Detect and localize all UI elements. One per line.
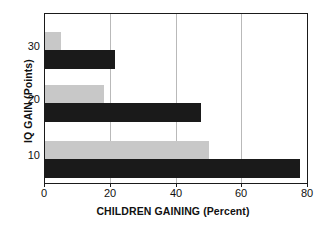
x-axis-tick-labels: 0 20 40 60 80	[0, 187, 328, 203]
bar-chart-figure: IQ GAIN (Points) 30 20 10 0 20 40 60	[0, 0, 328, 232]
x-tick-label-40: 40	[156, 187, 196, 200]
gridline-60	[241, 14, 242, 183]
x-axis-title: CHILDREN GAINING (Percent)	[0, 205, 328, 217]
bar-dark-30	[45, 50, 115, 69]
bar-dark-10	[45, 159, 300, 178]
bar-light-20	[45, 85, 104, 103]
x-tick-label-60: 60	[221, 187, 261, 200]
bar-light-30	[45, 32, 61, 50]
y-tick-label-20: 20	[18, 94, 40, 105]
bar-dark-20	[45, 103, 201, 122]
y-tick-label-10: 10	[18, 150, 40, 161]
x-tick-label-0: 0	[24, 187, 64, 200]
bar-light-10	[45, 141, 209, 159]
plot-area	[44, 13, 308, 184]
x-tick-label-80: 80	[287, 187, 327, 200]
x-tick-label-20: 20	[90, 187, 130, 200]
y-tick-label-30: 30	[18, 41, 40, 52]
